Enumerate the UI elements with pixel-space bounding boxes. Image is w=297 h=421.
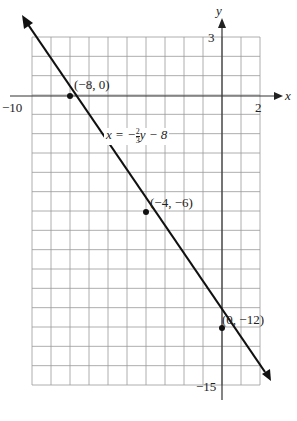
x-axis-arrow-icon (274, 92, 283, 100)
tick-label-x-max: 2 (255, 101, 262, 114)
x-axis-label: x (285, 89, 291, 102)
line-arrow-start-icon (22, 15, 33, 29)
point-marker (67, 93, 73, 99)
tick-label-x-min: −10 (2, 101, 22, 114)
tick-label-y-max: 3 (208, 31, 215, 44)
tick-label-y-min: −15 (196, 380, 216, 393)
point-label: (−8, 0) (74, 78, 110, 91)
equation-rhs: y − 8 (140, 127, 168, 142)
point-marker (143, 209, 149, 215)
y-axis-arrow-icon (218, 18, 226, 28)
point-label: (−4, −6) (150, 196, 193, 209)
graph-canvas (0, 0, 297, 421)
equation-label: x = −23y − 8 (104, 128, 169, 145)
point-label: (0, −12) (222, 313, 264, 326)
y-axis-label: y (216, 4, 222, 17)
equation-lhs: x = − (106, 127, 136, 142)
